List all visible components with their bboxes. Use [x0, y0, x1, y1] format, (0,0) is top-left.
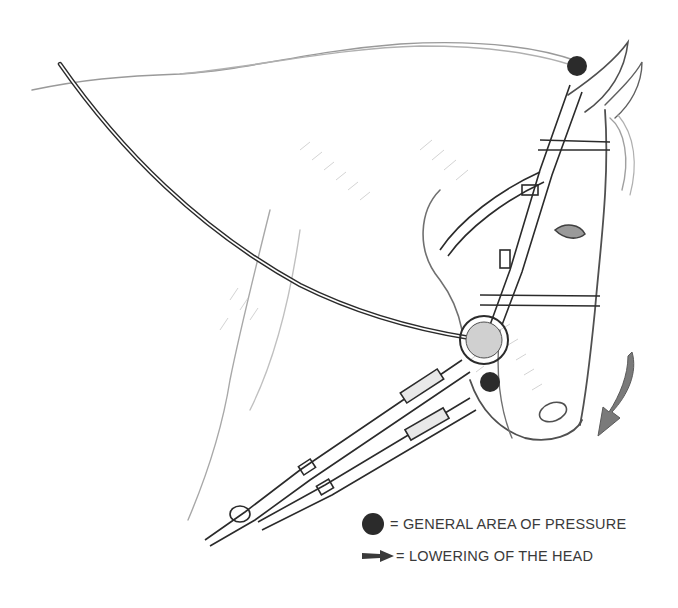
bridle	[440, 85, 610, 364]
arrow-right-icon	[362, 549, 394, 563]
legend-item-pressure: = GENERAL AREA OF PRESSURE	[362, 510, 662, 538]
legend-label: = GENERAL AREA OF PRESSURE	[390, 516, 626, 532]
reins	[60, 64, 470, 338]
pressure-dot-chin	[480, 372, 500, 392]
legend-label: = LOWERING OF THE HEAD	[396, 548, 593, 564]
pressure-dot-icon	[362, 513, 384, 535]
legend: = GENERAL AREA OF PRESSURE = LOWERING OF…	[362, 510, 662, 574]
horse-outline	[32, 42, 642, 520]
legend-item-lowering: = LOWERING OF THE HEAD	[362, 542, 662, 570]
pressure-dot-poll	[567, 56, 587, 76]
lowering-arrow-icon	[598, 352, 634, 436]
